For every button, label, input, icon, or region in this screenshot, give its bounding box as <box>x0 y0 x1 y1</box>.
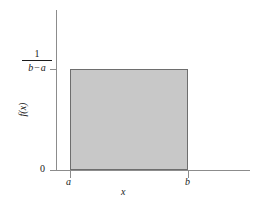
y-axis-label-max: 1 b−a <box>22 48 52 74</box>
x-axis-line <box>56 170 250 171</box>
uniform-density-region <box>70 69 188 170</box>
y-axis-title: f(x) <box>17 93 28 127</box>
x-axis-label-a: a <box>66 177 71 187</box>
minus-sign: − <box>33 62 41 73</box>
x-axis-title: x <box>121 187 125 197</box>
y-axis-tick-zero <box>50 170 57 171</box>
fraction-numerator: 1 <box>22 48 52 60</box>
fraction-denominator: b−a <box>22 61 52 74</box>
x-axis-label-b: b <box>185 177 190 187</box>
denominator-term-a: a <box>41 62 46 73</box>
uniform-distribution-figure: 1 b−a <box>0 0 260 205</box>
y-axis-line <box>56 10 57 171</box>
y-axis-label-zero: 0 <box>40 164 45 174</box>
